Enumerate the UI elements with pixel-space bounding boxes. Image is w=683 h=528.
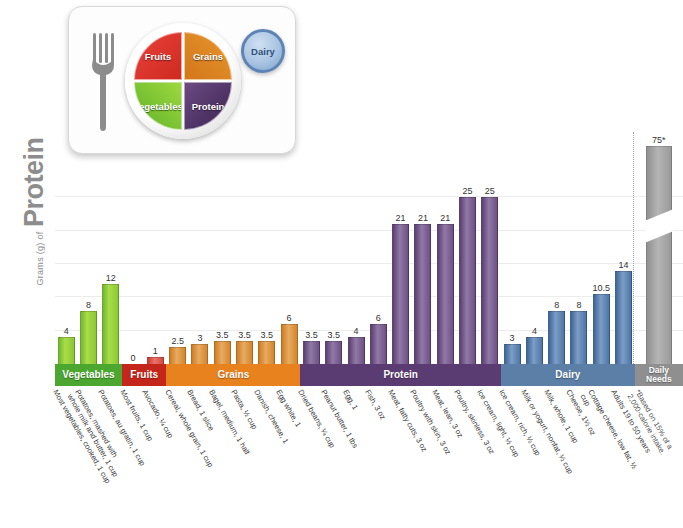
bar-slot[interactable]: 8 <box>77 132 99 364</box>
bar[interactable] <box>281 324 298 364</box>
bar-value-label: 8 <box>576 301 581 310</box>
plate-segment-protein: Protein <box>184 82 232 130</box>
plate-segment-fruits-label: Fruits <box>145 51 171 62</box>
bar[interactable] <box>504 344 521 364</box>
daily-needs-bar[interactable] <box>646 146 672 364</box>
bar-slot[interactable]: 3 <box>501 132 523 364</box>
bar[interactable] <box>147 357 164 364</box>
bar-value-label: 3.5 <box>216 331 229 340</box>
band-label: Vegetables <box>62 370 114 381</box>
bar-slot[interactable]: 8 <box>546 132 568 364</box>
bar-chart-plot: 4812012.533.53.53.563.53.546212121252534… <box>55 132 683 364</box>
bar[interactable] <box>548 311 565 364</box>
bar-slot[interactable]: 3.5 <box>323 132 345 364</box>
category-band-vegetables[interactable]: Vegetables <box>55 364 122 386</box>
bar-slot[interactable]: 21 <box>389 132 411 364</box>
band-label: Dairy <box>555 370 580 381</box>
bar[interactable] <box>169 347 186 364</box>
axis-break-mark <box>645 209 673 242</box>
bar-value-label: 21 <box>418 214 428 223</box>
bar[interactable] <box>303 341 320 364</box>
bar[interactable] <box>258 341 275 364</box>
bar-slot[interactable]: 3.5 <box>211 132 233 364</box>
plate-segment-grains: Grains <box>184 32 232 80</box>
bar-slot[interactable]: 4 <box>523 132 545 364</box>
bar-slot[interactable]: 4 <box>55 132 77 364</box>
category-band-fruits[interactable]: Fruits <box>122 364 167 386</box>
bar-slot[interactable]: 8 <box>568 132 590 364</box>
bar[interactable] <box>414 224 431 364</box>
y-axis-units-label: Grams (g) of <box>35 231 45 285</box>
bar-slot[interactable]: 25 <box>479 132 501 364</box>
bar-slot[interactable]: 21 <box>434 132 456 364</box>
bar-slot[interactable]: 0 <box>122 132 144 364</box>
bar-value-label: 8 <box>554 301 559 310</box>
category-band-protein[interactable]: Protein <box>300 364 501 386</box>
plate-segment-protein-label: Protein <box>192 101 225 112</box>
bar-value-label: 4 <box>532 327 537 336</box>
bar-slot[interactable]: 14 <box>612 132 634 364</box>
bar-value-label: 3 <box>510 334 515 343</box>
bar-value-label: 12 <box>106 274 116 283</box>
category-band-grains[interactable]: Grains <box>166 364 300 386</box>
bar-value-label: 25 <box>485 187 495 196</box>
bar-value-label: 8 <box>86 301 91 310</box>
bar-slot[interactable]: 21 <box>412 132 434 364</box>
bar-value-label: 3.5 <box>261 331 274 340</box>
daily-needs-bar-slot[interactable]: 75* <box>635 132 683 364</box>
bar-value-label: 4 <box>354 327 359 336</box>
bar[interactable] <box>459 197 476 364</box>
bar-value-label: 1 <box>153 347 158 356</box>
category-bands: VegetablesFruitsGrainsProteinDairyDailyN… <box>55 364 683 386</box>
bar-slot[interactable]: 4 <box>345 132 367 364</box>
plate-icon: Fruits Grains Vegetables Protein <box>125 23 241 139</box>
bar-slot[interactable]: 3.5 <box>233 132 255 364</box>
bar[interactable] <box>58 337 75 364</box>
bar-slot[interactable]: 3 <box>189 132 211 364</box>
bar[interactable] <box>392 224 409 364</box>
bar[interactable] <box>236 341 253 364</box>
bars-layer: 4812012.533.53.53.563.53.546212121252534… <box>55 132 683 364</box>
bar[interactable] <box>191 344 208 364</box>
bar[interactable] <box>593 294 610 364</box>
bar[interactable] <box>570 311 587 364</box>
bar-slot[interactable]: 1 <box>144 132 166 364</box>
bar-slot[interactable]: 10.5 <box>590 132 612 364</box>
bar-slot[interactable]: 12 <box>100 132 122 364</box>
bar-value-label: 3.5 <box>327 331 340 340</box>
plate-ring <box>125 23 241 139</box>
plate-segment-vegetables: Vegetables <box>134 82 182 130</box>
y-axis-title: Grams (g) of Protein <box>19 112 50 312</box>
fork-icon <box>91 31 117 131</box>
bar-value-label: 4 <box>64 327 69 336</box>
bar-slot[interactable]: 3.5 <box>256 132 278 364</box>
bar-slot[interactable]: 25 <box>456 132 478 364</box>
band-label-needs: Needs <box>646 375 672 384</box>
bar[interactable] <box>102 284 119 364</box>
bar[interactable] <box>214 341 231 364</box>
bar[interactable] <box>481 197 498 364</box>
bar-slot[interactable]: 3.5 <box>300 132 322 364</box>
bar[interactable] <box>80 311 97 364</box>
band-label: Fruits <box>130 370 158 381</box>
bar-slot[interactable]: 6 <box>367 132 389 364</box>
bar-value-label: 3.5 <box>305 331 318 340</box>
bar-value-label: 14 <box>619 261 629 270</box>
bar[interactable] <box>526 337 543 364</box>
bar-value-label: 2.5 <box>171 337 184 346</box>
bar-value-label: 0 <box>131 354 136 363</box>
bar[interactable] <box>437 224 454 364</box>
bar[interactable] <box>348 337 365 364</box>
bar-slot[interactable]: 2.5 <box>166 132 188 364</box>
bar-value-label: 10.5 <box>593 284 611 293</box>
category-band-daily-needs[interactable]: DailyNeeds <box>635 364 683 386</box>
bar[interactable] <box>325 341 342 364</box>
dairy-glass-icon: Dairy <box>241 29 285 73</box>
bar[interactable] <box>370 324 387 364</box>
bar[interactable] <box>615 271 632 364</box>
bar-value-label: 21 <box>440 214 450 223</box>
bar-slot[interactable]: 6 <box>278 132 300 364</box>
band-label: Grains <box>218 370 250 381</box>
bar-value-label: 3 <box>197 334 202 343</box>
category-band-dairy[interactable]: Dairy <box>501 364 635 386</box>
